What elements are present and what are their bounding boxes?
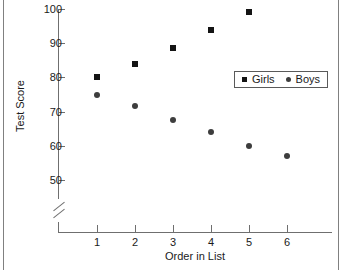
x-axis-tick-label: 2 (125, 236, 145, 248)
y-axis-tick-label: 100 (44, 4, 62, 15)
chart-figure: 1009080706050 123456 Test Score Order in… (0, 0, 345, 270)
data-point-boys (284, 153, 290, 159)
y-axis-tick-label: 90 (50, 38, 62, 49)
data-point-girls (94, 74, 100, 80)
circle-marker-icon (286, 77, 291, 82)
data-point-girls (132, 61, 138, 67)
page-frame-right-rule (338, 0, 339, 270)
data-point-boys (208, 129, 214, 135)
x-axis-tick (173, 225, 174, 232)
square-marker-icon (242, 77, 247, 82)
x-axis-tick (211, 225, 212, 232)
x-axis-tick-label: 5 (239, 236, 259, 248)
x-axis-tick (249, 225, 250, 232)
legend-label: Boys (296, 74, 320, 85)
data-point-girls (208, 27, 214, 33)
x-axis-tick-label: 1 (87, 236, 107, 248)
x-axis-tick (135, 225, 136, 232)
x-axis-tick (97, 225, 98, 232)
data-point-boys (170, 117, 176, 123)
x-axis-tick (287, 225, 288, 232)
data-point-girls (246, 9, 252, 15)
data-point-boys (246, 143, 252, 149)
data-point-girls (170, 45, 176, 51)
y-axis-tick-label: 50 (50, 175, 62, 186)
y-axis-tick-label: 80 (50, 72, 62, 83)
data-point-boys (132, 103, 138, 109)
legend-entry-boys: Boys (286, 74, 320, 85)
y-axis-tick-label: 70 (50, 107, 62, 118)
y-axis-tick-label: 60 (50, 141, 62, 152)
x-axis-title: Order in List (58, 250, 332, 262)
y-axis-title: Test Score (14, 56, 26, 156)
x-axis-tick-label: 4 (201, 236, 221, 248)
legend-entry-girls: Girls (242, 74, 275, 85)
x-axis-line (58, 232, 332, 233)
legend: GirlsBoys (234, 71, 328, 88)
x-axis-tick-label: 6 (277, 236, 297, 248)
y-axis-break-icon (51, 198, 67, 222)
page-frame-left-rule (3, 0, 4, 270)
data-point-boys (94, 92, 100, 98)
legend-label: Girls (252, 74, 275, 85)
x-axis-tick-label: 3 (163, 236, 183, 248)
